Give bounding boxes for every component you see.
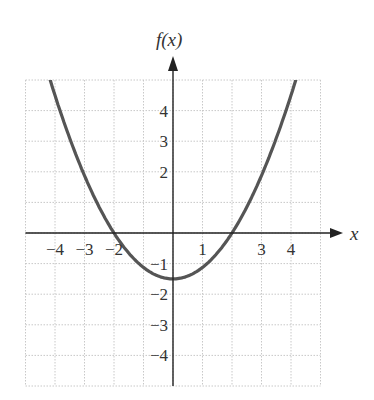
x-tick-label: 4 (287, 240, 296, 259)
y-tick-label: −3 (150, 316, 168, 335)
x-axis-label: x (349, 223, 359, 244)
y-tick-label: 4 (160, 102, 169, 121)
x-tick-label: −2 (105, 240, 123, 259)
x-tick-label: −3 (75, 240, 93, 259)
y-tick-label: −1 (150, 255, 168, 274)
x-tick-label: 3 (257, 240, 266, 259)
y-tick-label: 3 (160, 132, 169, 151)
y-tick-label: −2 (150, 285, 168, 304)
x-tick-label: −4 (46, 240, 65, 259)
y-axis-arrow-icon (168, 56, 178, 71)
x-tick-label: 1 (198, 240, 207, 259)
function-graph: −4−3−2134 432−1−2−3−4 x f(x) (0, 0, 374, 400)
x-axis-arrow-icon (330, 228, 343, 238)
y-tick-label: 2 (160, 163, 169, 182)
y-tick-label: −4 (150, 346, 169, 365)
x-tick-labels: −4−3−2134 (46, 240, 296, 259)
y-axis-label: f(x) (156, 29, 182, 51)
axes (26, 56, 344, 386)
